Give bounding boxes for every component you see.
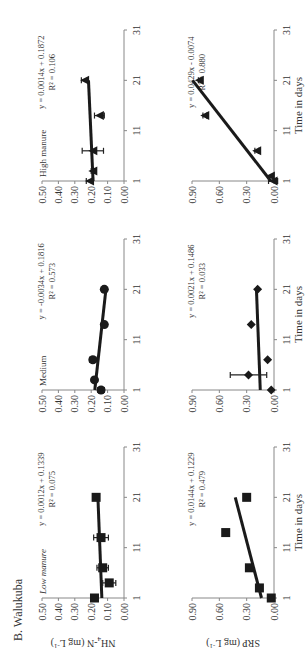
trendline bbox=[95, 289, 106, 390]
data-point bbox=[100, 320, 109, 329]
y-tick-label: 0.00 bbox=[119, 603, 130, 621]
trendline-r2: R² = 0.880 bbox=[197, 54, 207, 90]
y-tick-label: 0.20 bbox=[86, 395, 97, 413]
data-point bbox=[98, 563, 107, 572]
panel-title: Low manure bbox=[38, 549, 48, 595]
axis-lines bbox=[42, 30, 124, 181]
x-tick-label: 1 bbox=[281, 596, 292, 601]
axis-lines bbox=[192, 30, 274, 181]
y-tick-label: 0.30 bbox=[69, 395, 80, 413]
trendline-r2: R² = 0.479 bbox=[197, 471, 207, 507]
data-point bbox=[267, 594, 276, 603]
x-tick-label: 31 bbox=[131, 442, 142, 452]
data-point bbox=[244, 370, 253, 379]
data-point bbox=[242, 493, 251, 502]
x-tick-label: 21 bbox=[131, 492, 142, 502]
x-tick-label: 21 bbox=[131, 75, 142, 85]
panel-grid: 0.000.100.200.300.400.501112131Low manur… bbox=[36, 25, 304, 650]
trendline-equation: y = 0.0012x + 0.1339 bbox=[36, 453, 46, 526]
x-axis-title: Time in days bbox=[292, 77, 304, 134]
x-tick-label: 31 bbox=[131, 25, 142, 35]
y-tick-label: 0.00 bbox=[269, 395, 280, 413]
trendline-r2: R² = 0.075 bbox=[47, 471, 57, 507]
panel-nh4-n-low-manure: 0.000.100.200.300.400.501112131Low manur… bbox=[36, 442, 142, 650]
x-tick-label: 11 bbox=[281, 335, 292, 345]
data-point bbox=[255, 583, 264, 592]
axis-lines bbox=[42, 447, 124, 598]
y-tick-label: 0.20 bbox=[86, 603, 97, 621]
y-tick-label: 0.30 bbox=[241, 603, 252, 621]
data-point bbox=[252, 146, 261, 155]
y-tick-label: 0.30 bbox=[69, 186, 80, 204]
x-tick-label: 31 bbox=[281, 442, 292, 452]
x-tick-label: 31 bbox=[131, 234, 142, 244]
y-tick-label: 0.20 bbox=[86, 186, 97, 204]
data-point bbox=[263, 355, 272, 364]
y-tick-label: 0.40 bbox=[53, 603, 64, 621]
axis-lines bbox=[192, 447, 274, 598]
x-tick-label: 1 bbox=[131, 388, 142, 393]
trendline bbox=[235, 497, 261, 598]
data-point bbox=[97, 533, 106, 542]
y-tick-label: 0.50 bbox=[37, 603, 48, 621]
x-tick-label: 1 bbox=[281, 179, 292, 184]
data-point bbox=[100, 285, 109, 294]
x-tick-label: 21 bbox=[131, 284, 142, 294]
data-point bbox=[95, 111, 104, 120]
x-tick-label: 31 bbox=[281, 25, 292, 35]
data-point bbox=[253, 285, 262, 294]
rotated-figure-group: B. Walukuba 0.000.100.200.300.400.501112… bbox=[11, 25, 304, 650]
x-axis-title: Time in days bbox=[292, 494, 304, 551]
data-point bbox=[88, 355, 97, 364]
y-tick-label: 0.60 bbox=[214, 186, 225, 204]
panel-srp-medium: 0.000.300.600.901112131Time in daysy = 0… bbox=[186, 234, 304, 413]
x-axis-title: Time in days bbox=[292, 286, 304, 343]
y-tick-label: 0.90 bbox=[187, 395, 198, 413]
trendline-equation: y = -0.0034x + 0.1816 bbox=[36, 243, 46, 319]
y-tick-label: 0.90 bbox=[187, 186, 198, 204]
panel-nh4-n-medium: 0.000.100.200.300.400.501112131Mediumy =… bbox=[36, 234, 142, 413]
data-point bbox=[90, 594, 99, 603]
y-tick-label: 0.30 bbox=[241, 186, 252, 204]
data-point bbox=[80, 76, 89, 85]
panel-srp-low-manure: 0.000.300.600.901112131Time in daysy = 0… bbox=[186, 442, 304, 650]
panel-title: High manure bbox=[38, 130, 48, 177]
y-tick-label: 0.60 bbox=[214, 395, 225, 413]
panel-title: Medium bbox=[38, 356, 48, 387]
y-tick-label: 0.10 bbox=[102, 395, 113, 413]
y-tick-label: 0.30 bbox=[241, 395, 252, 413]
x-tick-label: 21 bbox=[281, 75, 292, 85]
y-tick-label: 0.50 bbox=[37, 186, 48, 204]
figure-canvas: B. Walukuba 0.000.100.200.300.400.501112… bbox=[0, 0, 308, 651]
panel-nh4-n-high-manure: 0.000.100.200.300.400.501112131High manu… bbox=[36, 25, 142, 204]
trendline bbox=[193, 80, 271, 181]
x-tick-label: 31 bbox=[281, 234, 292, 244]
trendline-r2: R² = 0.106 bbox=[47, 54, 57, 90]
data-point bbox=[92, 493, 101, 502]
y-tick-label: 0.10 bbox=[102, 186, 113, 204]
x-tick-label: 11 bbox=[281, 126, 292, 136]
x-tick-label: 11 bbox=[131, 126, 142, 136]
x-tick-label: 21 bbox=[281, 492, 292, 502]
axis-lines bbox=[192, 239, 274, 390]
x-tick-label: 11 bbox=[131, 543, 142, 553]
y-tick-label: 0.90 bbox=[187, 603, 198, 621]
y-tick-label: 0.40 bbox=[53, 395, 64, 413]
axis-lines bbox=[42, 239, 124, 390]
trendline-equation: y = 0.0144x + 0.1229 bbox=[186, 453, 196, 526]
data-point bbox=[221, 528, 230, 537]
y-tick-label: 0.10 bbox=[102, 603, 113, 621]
y-tick-label: 0.40 bbox=[53, 186, 64, 204]
figure-walukuba: B. Walukuba 0.000.100.200.300.400.501112… bbox=[0, 0, 308, 651]
trendline-equation: y = 0.0021x + 0.1486 bbox=[186, 245, 196, 318]
trendline bbox=[88, 80, 93, 181]
data-point bbox=[90, 375, 99, 384]
data-point bbox=[85, 177, 94, 186]
trendline-equation: y = 0.0014x + 0.1872 bbox=[36, 36, 46, 109]
y-tick-label: 0.30 bbox=[69, 603, 80, 621]
y-tick-label: 0.00 bbox=[269, 603, 280, 621]
data-point bbox=[97, 386, 106, 395]
x-tick-label: 1 bbox=[131, 596, 142, 601]
x-tick-label: 21 bbox=[281, 284, 292, 294]
y-tick-label: 0.60 bbox=[214, 603, 225, 621]
